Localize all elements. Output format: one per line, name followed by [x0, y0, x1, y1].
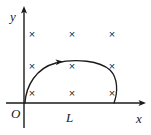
- y-axis-label: y: [8, 9, 16, 24]
- origin-label: O: [11, 106, 21, 121]
- field-marker-x: ×: [69, 60, 75, 72]
- field-marker-x: ×: [29, 28, 35, 40]
- field-marker-x: ×: [29, 60, 35, 72]
- field-marker-x: ×: [29, 87, 35, 99]
- physics-figure: y x O L × × × × × × × × ×: [0, 0, 151, 135]
- field-marker-x: ×: [69, 87, 75, 99]
- magnetic-field-markers: × × × × × × × × ×: [29, 28, 115, 99]
- length-label: L: [65, 110, 73, 125]
- y-axis: [21, 6, 27, 128]
- figure-canvas: y x O L × × × × × × × × ×: [0, 0, 151, 135]
- field-marker-x: ×: [69, 28, 75, 40]
- x-axis-label: x: [135, 111, 142, 126]
- x-axis: [6, 100, 146, 106]
- field-marker-x: ×: [109, 28, 115, 40]
- field-marker-x: ×: [109, 87, 115, 99]
